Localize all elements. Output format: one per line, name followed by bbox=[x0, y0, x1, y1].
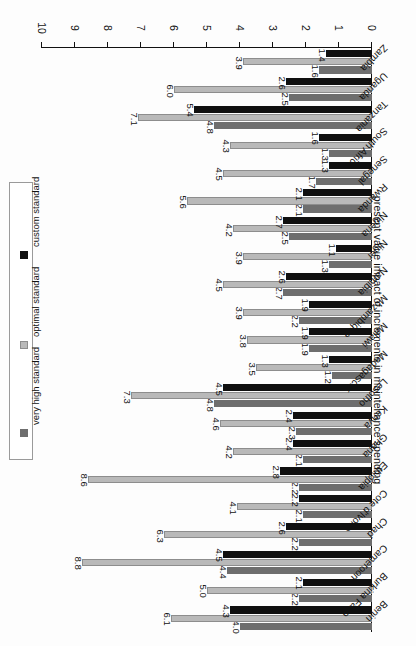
bar-value-label: 7.1 bbox=[128, 112, 139, 125]
bar-value-label: 4.2 bbox=[224, 223, 235, 236]
bar[interactable] bbox=[303, 579, 372, 586]
bar[interactable] bbox=[296, 428, 372, 435]
bar[interactable] bbox=[233, 448, 372, 455]
bar-value-label: 2.5 bbox=[280, 231, 291, 244]
bar[interactable] bbox=[207, 587, 372, 594]
legend-swatch-icon bbox=[20, 251, 28, 259]
bar[interactable] bbox=[299, 495, 372, 502]
bar[interactable] bbox=[293, 412, 372, 419]
bar[interactable] bbox=[257, 364, 373, 371]
bar-value-label: 8.8 bbox=[72, 557, 83, 570]
value-axis-tick-label: 2 bbox=[300, 19, 312, 37]
bar-value-label: 2.8 bbox=[270, 465, 281, 478]
bar[interactable] bbox=[233, 225, 372, 232]
bar[interactable] bbox=[286, 78, 372, 85]
legend-item[interactable]: optimal standard bbox=[10, 269, 32, 349]
bar[interactable] bbox=[88, 476, 372, 483]
bar-value-label: 6.0 bbox=[165, 84, 176, 97]
bar-value-label: 4.5 bbox=[214, 549, 225, 562]
bar[interactable] bbox=[283, 217, 372, 224]
bar[interactable] bbox=[171, 615, 372, 622]
bar-value-label: 2.2 bbox=[290, 315, 301, 328]
bar-value-label: 1.6 bbox=[310, 64, 321, 77]
bar[interactable] bbox=[224, 170, 373, 177]
bar[interactable] bbox=[230, 142, 372, 149]
bar[interactable] bbox=[326, 50, 372, 57]
bar[interactable] bbox=[243, 58, 372, 65]
bar-value-label: 2.2 bbox=[290, 537, 301, 550]
legend-swatch-icon bbox=[20, 341, 28, 349]
bar[interactable] bbox=[329, 356, 372, 363]
bar[interactable] bbox=[220, 420, 372, 427]
bar-value-label: 4.4 bbox=[217, 565, 228, 578]
bar-group: 1.33.91.1 bbox=[42, 243, 372, 271]
bar-value-label: 1.9 bbox=[300, 326, 311, 339]
bar-value-label: 4.6 bbox=[211, 418, 222, 431]
value-axis-tick-label: 3 bbox=[267, 19, 279, 37]
bar-value-label: 2.7 bbox=[273, 215, 284, 228]
bar-value-label: 1.9 bbox=[300, 299, 311, 312]
bar[interactable] bbox=[280, 467, 372, 474]
plot-area: 4.06.14.32.25.02.14.48.84.52.26.32.62.14… bbox=[42, 48, 372, 632]
legend-item[interactable]: custom standard bbox=[10, 179, 32, 259]
bar-value-label: 6.1 bbox=[161, 613, 172, 626]
bar-value-label: 4.5 bbox=[214, 279, 225, 292]
bar-value-label: 3.5 bbox=[247, 362, 258, 375]
bar[interactable] bbox=[329, 261, 372, 268]
bar[interactable] bbox=[243, 253, 372, 260]
bar[interactable] bbox=[214, 400, 372, 407]
bar-group: 4.06.14.3 bbox=[42, 604, 372, 632]
bar[interactable] bbox=[164, 531, 372, 538]
bar[interactable] bbox=[187, 197, 372, 204]
bar-group: 2.26.32.6 bbox=[42, 521, 372, 549]
bar[interactable] bbox=[303, 189, 372, 196]
bar[interactable] bbox=[138, 114, 372, 121]
bar-value-label: 2.7 bbox=[273, 287, 284, 300]
bar-group: 2.14.12.2 bbox=[42, 493, 372, 521]
bar-value-label: 1.7 bbox=[306, 176, 317, 189]
chart-legend[interactable]: very high standardoptimal standardcustom… bbox=[9, 182, 33, 460]
bar[interactable] bbox=[240, 623, 372, 630]
bar-value-label: 2.1 bbox=[293, 187, 304, 200]
bar[interactable] bbox=[299, 539, 372, 546]
bar[interactable] bbox=[286, 273, 372, 280]
bar-value-label: 4.2 bbox=[224, 446, 235, 459]
bar[interactable] bbox=[224, 551, 373, 558]
bar-group: 2.25.02.1 bbox=[42, 576, 372, 604]
bar[interactable] bbox=[214, 122, 372, 129]
bar-value-label: 2.5 bbox=[280, 92, 291, 105]
bar[interactable] bbox=[224, 281, 373, 288]
value-axis-tick-label: 8 bbox=[102, 19, 114, 37]
bar-value-label: 1.3 bbox=[320, 354, 331, 367]
value-axis-tick-label: 1 bbox=[333, 19, 345, 37]
bar-group: 1.23.51.3 bbox=[42, 354, 372, 382]
bar-value-label: 4.3 bbox=[221, 605, 232, 618]
bar-value-label: 2.6 bbox=[277, 521, 288, 534]
bar-group: 4.48.84.5 bbox=[42, 549, 372, 577]
value-axis-tick-label: 7 bbox=[135, 19, 147, 37]
bar-value-label: 3.9 bbox=[234, 56, 245, 69]
bar-group: 2.74.52.6 bbox=[42, 271, 372, 299]
bar-value-label: 2.4 bbox=[283, 410, 294, 423]
bar[interactable] bbox=[174, 86, 372, 93]
bar[interactable] bbox=[293, 440, 372, 447]
bar[interactable] bbox=[319, 134, 372, 141]
bar-value-label: 2.6 bbox=[277, 76, 288, 89]
bar[interactable] bbox=[336, 245, 372, 252]
bar-group: 4.87.34.5 bbox=[42, 382, 372, 410]
bar[interactable] bbox=[290, 233, 373, 240]
rotated-page-canvas: present value impact of increments in ma… bbox=[0, 0, 416, 646]
bar[interactable] bbox=[82, 559, 372, 566]
bar-value-label: 8.6 bbox=[79, 474, 90, 487]
legend-item[interactable]: very high standard bbox=[10, 357, 32, 437]
value-axis-tick-label: 6 bbox=[168, 19, 180, 37]
bar[interactable] bbox=[237, 503, 372, 510]
bar[interactable] bbox=[309, 328, 372, 335]
bar-value-label: 1.2 bbox=[323, 370, 334, 383]
legend-label: very high standard bbox=[30, 347, 41, 425]
bar[interactable] bbox=[303, 456, 372, 463]
bar-value-label: 1.1 bbox=[326, 243, 337, 256]
bar[interactable] bbox=[194, 106, 372, 113]
bar[interactable] bbox=[309, 301, 372, 308]
bar[interactable] bbox=[131, 392, 372, 399]
